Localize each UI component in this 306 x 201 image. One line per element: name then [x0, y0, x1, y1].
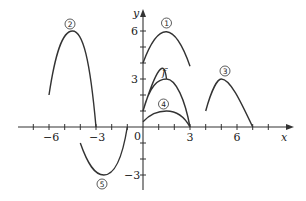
origin-label: 0 [134, 130, 141, 143]
curve-5-label: 5 [97, 179, 107, 189]
curve-2-label: 2 [65, 19, 75, 29]
curve-1 [143, 32, 190, 66]
svg-text:1: 1 [164, 19, 169, 28]
x-tick-label-neg6: −6 [43, 131, 59, 144]
x-axis-label: x [281, 131, 288, 144]
svg-text:4: 4 [161, 100, 166, 109]
x-tick-label-3: 3 [187, 131, 194, 144]
curve-4 [143, 111, 190, 127]
curve-3-label: 3 [220, 66, 230, 76]
y-tick-label-6: 6 [131, 25, 138, 38]
curve-4-label: 4 [159, 99, 169, 109]
svg-text:5: 5 [100, 180, 105, 189]
curve-3 [206, 79, 253, 127]
curve-1-label: 1 [162, 18, 172, 28]
y-axis-label: y [132, 7, 140, 20]
y-tick-label-neg3: −3 [124, 169, 140, 182]
x-axis-arrow-icon [286, 124, 294, 130]
curve-2 [49, 31, 96, 127]
x-tick-label-6: 6 [234, 131, 241, 144]
x-tick-label-neg3: −3 [89, 131, 105, 144]
svg-text:3: 3 [223, 67, 228, 76]
y-axis-arrow-icon [140, 9, 146, 17]
function-graph: −6 −3 0 3 6 x 6 3 −3 y 1 f 4 3 2 5 [0, 0, 306, 201]
svg-text:2: 2 [68, 20, 73, 29]
y-tick-label-3: 3 [131, 73, 138, 86]
